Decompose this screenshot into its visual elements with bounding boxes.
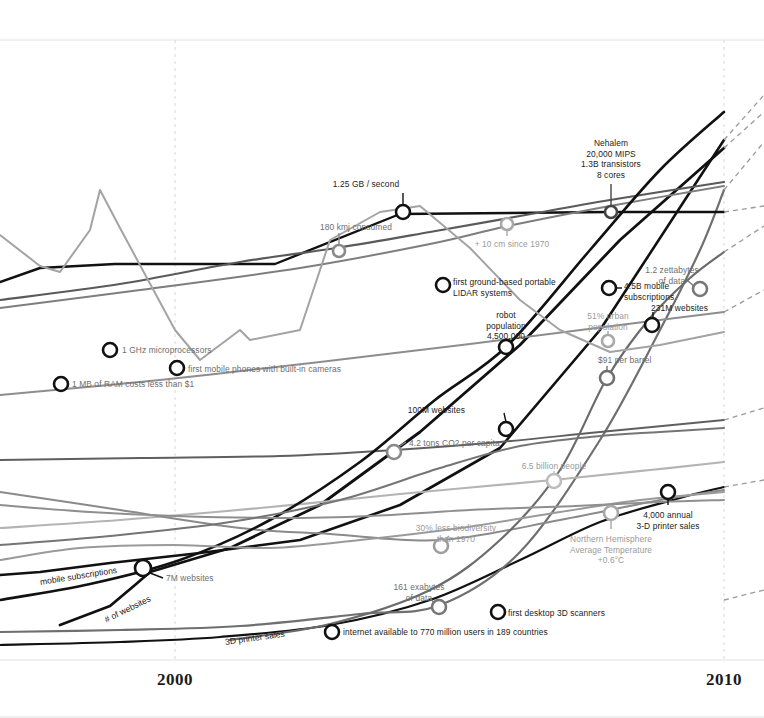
marker-camera-phones-point[interactable] — [170, 361, 184, 375]
annotation-websites-7m-point: 7M websites — [166, 573, 214, 584]
annotation-ram-point: 1 MB of RAM costs less than $1 — [72, 379, 194, 390]
annotation-temperature-point: Northern Hemisphere Average Temperature … — [521, 534, 701, 566]
marker-co2-point[interactable] — [387, 445, 401, 459]
annotation-printer-sales-point: 4,000 annual 3-D printer sales — [578, 510, 758, 531]
marker-population-point[interactable] — [547, 474, 561, 488]
series-line-co2-per-capita — [0, 420, 724, 460]
annotation-internet-users-point: internet available to 770 million users … — [343, 627, 548, 638]
projection-dashed-8 — [724, 590, 764, 600]
annotation-biodiversity-point: 30% less biodiversity than 1970 — [366, 523, 546, 544]
marker-websites-7m-point[interactable] — [135, 560, 151, 576]
marker-robot-pop-point[interactable] — [499, 340, 513, 354]
infographic-canvas: 20002010 1.25 GB / second180 kmj consume… — [0, 0, 764, 718]
marker-sea-level-point[interactable] — [501, 218, 513, 230]
marker-urban-pop-point[interactable] — [602, 335, 614, 347]
marker-internet-users-point[interactable] — [325, 625, 339, 639]
leader-line-websites-100m-point — [504, 413, 506, 422]
marker-websites-100m-point[interactable] — [499, 422, 513, 436]
projection-dashed-5 — [724, 290, 764, 312]
annotation-lidar-point: first ground-based portable LIDAR system… — [453, 277, 556, 298]
projection-dashed-6 — [724, 408, 764, 420]
marker-bandwidth-point[interactable] — [396, 205, 410, 219]
marker-scanners-point[interactable] — [491, 605, 505, 619]
annotation-robot-pop-point: robot population 4,500,000 — [416, 310, 596, 342]
annotation-camera-phones-point: first mobile phones with built-in camera… — [188, 364, 341, 375]
annotation-co2-point: 4.2 tons CO2 per capita — [409, 438, 500, 449]
x-axis-tick-2000: 2000 — [147, 670, 203, 690]
marker-ghz-point[interactable] — [103, 343, 117, 357]
projection-dashed-4 — [724, 226, 764, 252]
annotation-population-point: 6.5 billion people — [464, 461, 644, 472]
annotation-websites-100m-point: 100M websites — [295, 405, 465, 416]
marker-nehalem-point[interactable] — [605, 206, 617, 218]
annotation-nehalem-point: Nehalem 20,000 MIPS 1.3B transistors 8 c… — [521, 138, 701, 180]
marker-oil-price-point[interactable] — [600, 371, 614, 385]
projection-dashed-2 — [724, 142, 764, 190]
annotation-bandwidth-point: 1.25 GB / second — [276, 179, 456, 190]
annotation-mobile-subs-point: 4.5B mobile subscriptions — [624, 281, 674, 302]
projection-dashed-3 — [724, 206, 764, 212]
marker-energy-point[interactable] — [333, 245, 345, 257]
projection-dashed-7 — [724, 480, 764, 487]
marker-lidar-point[interactable] — [436, 278, 450, 292]
annotation-websites-231m-point: 231M websites — [651, 303, 708, 314]
annotation-sea-level-point: + 10 cm since 1970 — [422, 239, 602, 250]
annotation-ghz-point: 1 GHz microprocessors — [122, 345, 212, 356]
x-axis-tick-2010: 2010 — [696, 670, 752, 690]
marker-printer-sales-point[interactable] — [661, 485, 675, 499]
annotation-energy-point: 180 kmj consumed — [320, 222, 392, 233]
leader-line-websites-7m-point — [150, 573, 163, 578]
annotation-exabytes-point: 161 exabytes of data — [329, 582, 509, 603]
annotation-oil-price-point: $91 per barrel — [598, 355, 652, 366]
marker-ram-point[interactable] — [54, 377, 68, 391]
annotation-scanners-point: first desktop 3D scanners — [508, 608, 605, 619]
